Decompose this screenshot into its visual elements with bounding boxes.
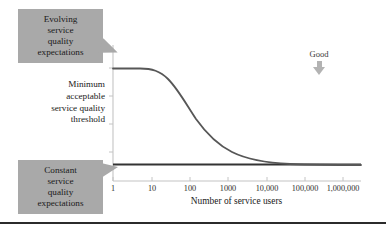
callout-evolving-service-quality-expectations: Evolving service quality expectations [18,9,103,63]
callout-constant-service-quality-expectations: Constant service quality expectations [18,160,103,214]
bottom-divider [0,222,386,224]
x-tick-label-100: 100 [184,184,196,193]
x-tick-label-10: 10 [148,184,156,193]
x-tick-label-1000: 1000 [220,184,236,193]
x-tick-label-1: 1 [111,184,115,193]
x-axis-title: Number of service users [113,196,360,206]
series-evolving-expectations-curve [113,69,361,166]
x-tick-label-10000: 10,000 [256,184,279,193]
good-label: Good [297,50,341,59]
minimum-acceptable-threshold-label: Minimum acceptable service quality thres… [8,79,105,126]
good-annotation: Good [297,50,341,75]
figure-service-quality-expectations: Evolving service quality expectations Co… [0,0,386,235]
arrow-down-icon [313,61,325,75]
x-tick-label-1000000: 1,000,000 [327,184,360,193]
callout-constant-text: Constant service quality expectations [34,165,88,208]
callout-constant-pointer-tail [101,163,118,178]
x-tick-label-100000: 100,000 [292,184,319,193]
callout-evolving-text: Evolving service quality expectations [34,14,88,57]
